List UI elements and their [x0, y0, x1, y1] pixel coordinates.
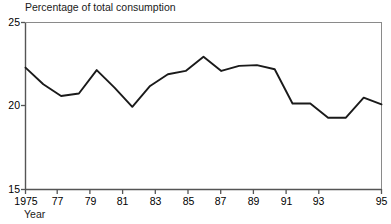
line-chart-plot: [0, 0, 391, 224]
x-tick-label-95: 95: [369, 196, 391, 207]
y-tick-label-15: 15: [0, 184, 20, 195]
x-tick-label-1975: 1975: [6, 196, 46, 207]
x-tick-label-93: 93: [306, 196, 331, 207]
x-tick-label-83: 83: [143, 196, 168, 207]
axes-group: [25, 22, 382, 190]
x-tick-label-89: 89: [241, 196, 266, 207]
y-tick-marks: [21, 23, 25, 190]
x-axis-title: Year: [24, 209, 45, 220]
x-tick-label-85: 85: [176, 196, 201, 207]
chart-figure: Percentage of total consumption: [0, 0, 391, 224]
data-series-line: [26, 57, 382, 118]
y-tick-label-25: 25: [0, 17, 20, 28]
x-tick-label-77: 77: [45, 196, 70, 207]
x-tick-label-81: 81: [110, 196, 135, 207]
x-tick-label-87: 87: [208, 196, 233, 207]
x-tick-label-79: 79: [78, 196, 103, 207]
x-tick-label-91: 91: [274, 196, 299, 207]
y-tick-label-20: 20: [0, 100, 20, 111]
